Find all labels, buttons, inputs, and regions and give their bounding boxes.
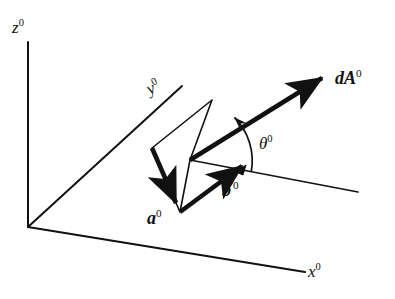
axis-label-x: x0	[308, 262, 321, 280]
vector-a	[152, 148, 176, 203]
vector-label-a: a0	[147, 208, 162, 227]
vector-dA	[190, 78, 322, 160]
diagram-canvas	[0, 0, 395, 299]
vector-label-b: b'0	[222, 180, 239, 199]
axis-label-z: z0	[12, 18, 24, 36]
differential-area-diagram: z0 y0 x0 dA0 θ0 a0 b'0	[0, 0, 395, 299]
angle-label-theta: θ0	[259, 134, 273, 152]
vector-label-dA: dA0	[335, 68, 362, 87]
axis-line-y	[28, 86, 182, 227]
axis-line-x	[28, 227, 305, 272]
